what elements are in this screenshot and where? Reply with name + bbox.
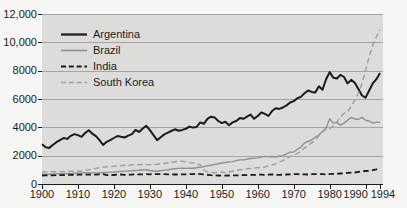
gdp-per-capita-line-chart: 0200040006000800010,00012,000 1900191019… xyxy=(0,0,407,208)
x-axis-tick-label: 1970 xyxy=(276,188,312,201)
legend-label: India xyxy=(93,60,117,72)
y-axis-tick-label: 4000 xyxy=(0,121,37,134)
legend-label: Brazil xyxy=(93,44,121,56)
argentina-line-sample-icon xyxy=(61,30,87,39)
x-axis-tick-label: 1930 xyxy=(132,188,168,201)
y-axis-tick-label: 10,000 xyxy=(0,36,37,49)
x-axis-tick-label: 1950 xyxy=(204,188,240,201)
legend-item-argentina: Argentina xyxy=(61,26,154,42)
brazil-line-sample-icon xyxy=(61,46,87,55)
x-axis-tick-label: 1900 xyxy=(24,188,60,201)
y-axis-tick-label: 2000 xyxy=(0,149,37,162)
x-axis-tick-label: 1910 xyxy=(60,188,96,201)
legend-label: Argentina xyxy=(93,28,140,40)
x-axis-tick-label: 1940 xyxy=(168,188,204,201)
x-axis-tick-label: 1994 xyxy=(365,188,401,201)
y-axis-tick-label: 6000 xyxy=(0,93,37,106)
legend-item-brazil: Brazil xyxy=(61,42,154,58)
india-line-sample-icon xyxy=(61,62,87,71)
y-axis-tick-label: 12,000 xyxy=(0,8,37,21)
x-axis-tick-label: 1960 xyxy=(240,188,276,201)
x-axis-tick-label: 1920 xyxy=(96,188,132,201)
legend-item-south-korea: South Korea xyxy=(61,74,154,90)
legend: Argentina Brazil India South Korea xyxy=(61,26,154,90)
south-korea-line-sample-icon xyxy=(61,78,87,87)
legend-label: South Korea xyxy=(93,76,154,88)
legend-item-india: India xyxy=(61,58,154,74)
y-axis-tick-label: 8000 xyxy=(0,64,37,77)
